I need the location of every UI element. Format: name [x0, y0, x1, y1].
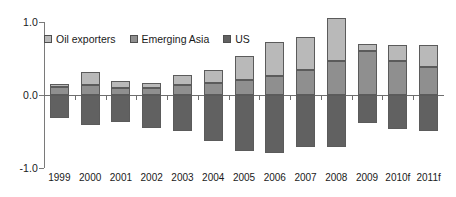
bar-segment-us	[173, 95, 192, 131]
y-axis-tick-label: 0.0	[23, 89, 44, 101]
x-axis-tick	[75, 96, 76, 100]
bar-segment-oil-exporters	[296, 37, 315, 71]
x-axis-tick	[259, 96, 260, 100]
bar-segment-oil-exporters	[142, 83, 161, 89]
bar-segment-oil-exporters	[358, 44, 377, 51]
bar-group	[296, 22, 315, 168]
bar-segment-us	[81, 95, 100, 125]
bar-segment-oil-exporters	[419, 45, 438, 67]
y-axis-tick-label: 1.0	[23, 16, 44, 28]
legend-label-emerging-asia: Emerging Asia	[142, 34, 210, 45]
x-axis-tick-label: 2000	[79, 172, 101, 183]
bar-segment-us	[142, 95, 161, 128]
x-axis-tick	[229, 96, 230, 100]
x-axis-tick-label: 2008	[325, 172, 347, 183]
bar-segment-oil-exporters	[204, 70, 223, 83]
bar-segment-emerging-asia	[358, 51, 377, 95]
bar-segment-us	[265, 95, 284, 153]
bar-segment-emerging-asia	[235, 80, 254, 95]
bar-segment-emerging-asia	[388, 61, 407, 95]
bar-segment-emerging-asia	[173, 85, 192, 95]
x-axis-tick-label: 2011f	[416, 172, 440, 183]
bar-segment-emerging-asia	[81, 85, 100, 95]
x-axis-tick-label: 2001	[110, 172, 132, 183]
x-axis-tick-label: 2009	[356, 172, 378, 183]
bar-group	[358, 22, 377, 168]
legend-item-oil-exporters: Oil exporters	[44, 34, 116, 45]
bar-segment-emerging-asia	[265, 76, 284, 95]
legend-item-us: US	[223, 34, 250, 45]
bar-segment-emerging-asia	[296, 70, 315, 95]
bar-group	[327, 22, 346, 168]
x-axis-tick-label: 2010f	[385, 172, 410, 183]
bar-segment-us	[419, 95, 438, 131]
x-axis-tick	[290, 96, 291, 100]
bar-segment-oil-exporters	[81, 72, 100, 84]
stacked-bar-chart: 1.00.0-1.0 Oil exporters Emerging Asia U…	[0, 0, 456, 197]
x-axis-tick-label: 2006	[264, 172, 286, 183]
bar-segment-us	[327, 95, 346, 147]
bar-segment-emerging-asia	[111, 88, 130, 95]
x-axis-tick	[321, 96, 322, 100]
chart-legend: Oil exporters Emerging Asia US	[44, 34, 250, 45]
bar-segment-oil-exporters	[265, 42, 284, 76]
x-axis-tick-label: 2005	[233, 172, 255, 183]
legend-swatch-icon-us	[223, 35, 231, 43]
bar-segment-emerging-asia	[327, 61, 346, 95]
bar-segment-us	[296, 95, 315, 147]
x-axis-tick	[106, 96, 107, 100]
legend-item-emerging-asia: Emerging Asia	[130, 34, 210, 45]
x-axis-tick-label: 2003	[171, 172, 193, 183]
x-axis-labels: 1999200020012002200320042005200620072008…	[44, 172, 444, 188]
bar-segment-us	[235, 95, 254, 151]
bar-segment-us	[111, 95, 130, 122]
x-axis-tick	[167, 96, 168, 100]
bar-segment-oil-exporters	[388, 45, 407, 61]
x-axis-tick	[352, 96, 353, 100]
bar-segment-oil-exporters	[50, 84, 69, 87]
legend-swatch-icon-oil-exporters	[44, 35, 52, 43]
x-axis-tick-label: 2004	[202, 172, 224, 183]
bar-segment-oil-exporters	[173, 75, 192, 84]
x-axis-tick-label: 2007	[294, 172, 316, 183]
x-axis-tick-label: 2002	[141, 172, 163, 183]
x-axis-tick	[413, 96, 414, 100]
bar-group	[419, 22, 438, 168]
y-axis-tick-label: -1.0	[20, 162, 45, 174]
x-axis-tick-label: 1999	[48, 172, 70, 183]
bar-segment-emerging-asia	[204, 83, 223, 95]
bar-segment-emerging-asia	[142, 88, 161, 95]
x-axis-tick	[198, 96, 199, 100]
bar-segment-us	[388, 95, 407, 129]
bar-segment-us	[50, 95, 69, 118]
legend-label-us: US	[235, 34, 250, 45]
bar-segment-us	[204, 95, 223, 141]
legend-swatch-icon-emerging-asia	[130, 35, 138, 43]
bar-segment-emerging-asia	[419, 67, 438, 95]
bar-segment-oil-exporters	[111, 81, 130, 88]
bar-segment-oil-exporters	[327, 18, 346, 60]
legend-label-oil-exporters: Oil exporters	[56, 34, 116, 45]
bar-group	[388, 22, 407, 168]
x-axis-tick	[382, 96, 383, 100]
x-axis-tick	[136, 96, 137, 100]
bar-group	[265, 22, 284, 168]
bar-segment-oil-exporters	[235, 56, 254, 80]
bar-segment-emerging-asia	[50, 87, 69, 95]
bar-segment-us	[358, 95, 377, 123]
